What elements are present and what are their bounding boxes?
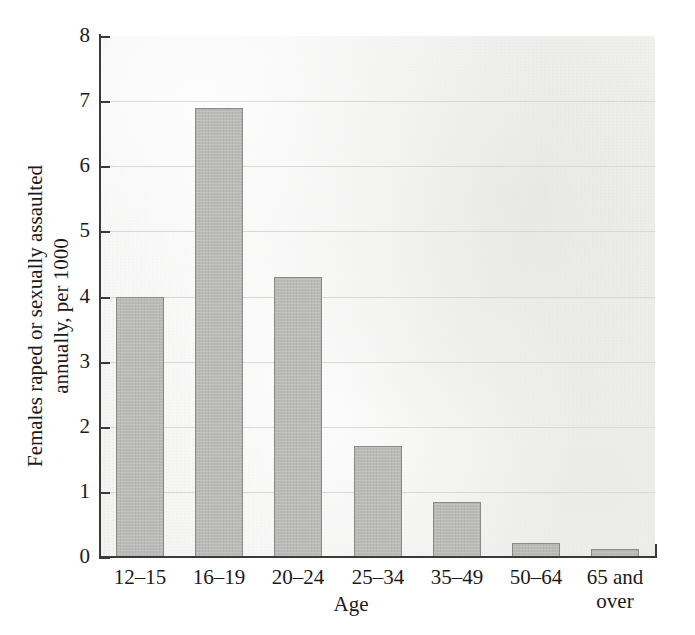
bar — [512, 543, 560, 557]
gridline-5 — [100, 231, 655, 232]
y-tick-7 — [101, 101, 110, 103]
y-tick-0 — [101, 557, 110, 559]
bar — [274, 277, 322, 557]
y-tick-3 — [101, 362, 110, 364]
gridline-3 — [100, 362, 655, 363]
y-tick-1 — [101, 492, 110, 494]
bar — [354, 446, 402, 557]
gridline-2 — [100, 427, 655, 428]
gridline-6 — [100, 166, 655, 167]
y-tick-label-8: 8 — [64, 25, 90, 46]
gridline-7 — [100, 101, 655, 102]
x-tick-label: 65 and over — [565, 565, 665, 613]
bar — [433, 502, 481, 557]
bar — [195, 108, 243, 557]
y-tick-6 — [101, 166, 110, 168]
plot-area — [100, 36, 655, 557]
gridline-4 — [100, 297, 655, 298]
x-axis-end-tick — [655, 544, 657, 558]
x-axis-title: Age — [306, 593, 396, 616]
y-tick-5 — [101, 231, 110, 233]
bar — [116, 297, 164, 558]
x-axis-line — [99, 556, 657, 558]
y-tick-label-0: 0 — [64, 546, 90, 567]
bar-chart-figure: 012345678 12–1516–1920–2425–3435–4950–64… — [0, 0, 695, 635]
y-tick-8 — [101, 36, 110, 38]
y-tick-4 — [101, 297, 110, 299]
y-tick-2 — [101, 427, 110, 429]
y-axis-title: Females raped or sexually assaulted annu… — [22, 96, 74, 536]
